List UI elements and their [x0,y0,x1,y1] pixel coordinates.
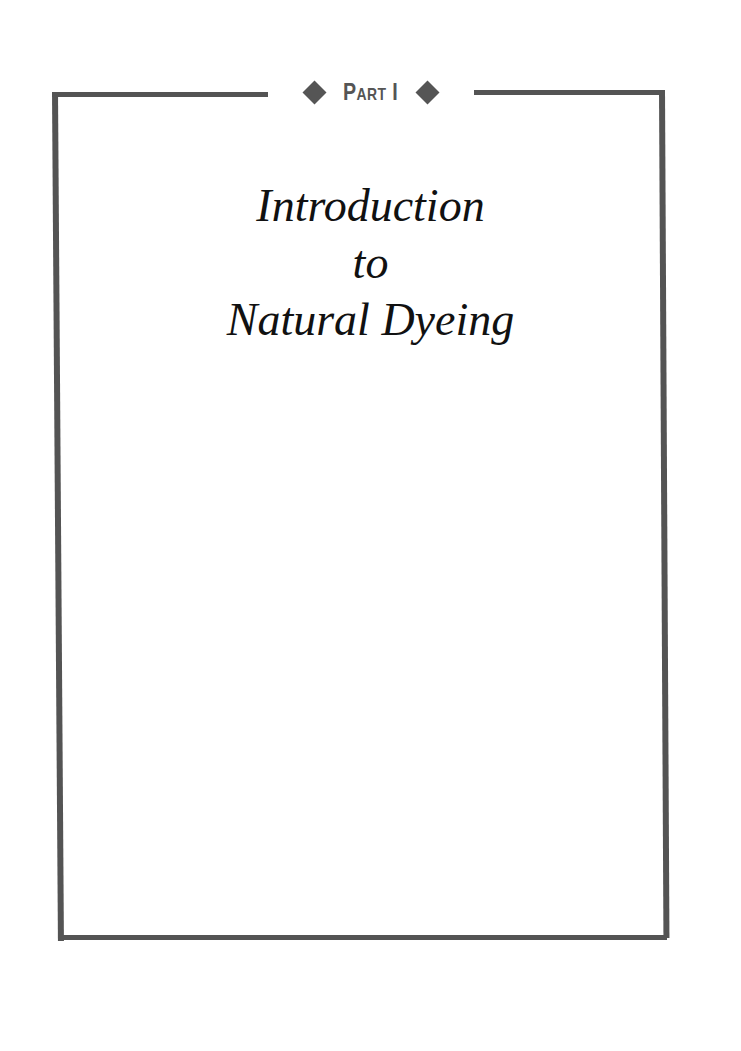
diamond-icon [415,80,439,104]
part-header: Part I [268,74,474,110]
title-line-2: to [0,240,741,286]
diamond-icon [303,80,327,104]
frame-top-left-segment [52,92,272,97]
title-line-1: Introduction [0,183,741,229]
title-line-3: Natural Dyeing [0,297,741,343]
frame-bottom-border [58,935,667,940]
part-label: Part I [343,80,398,104]
frame-top-right-segment [452,90,664,95]
